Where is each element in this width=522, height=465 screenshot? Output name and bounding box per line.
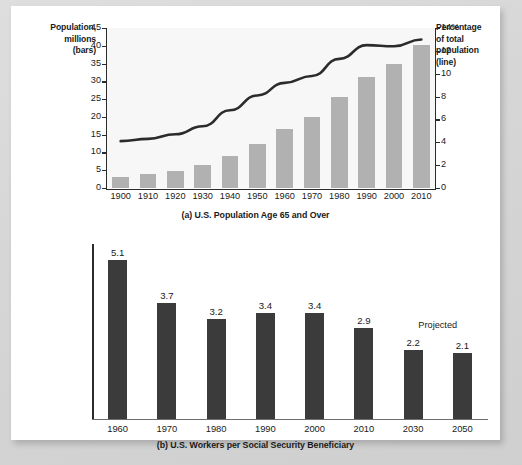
chart-b-caption: (b) U.S. Workers per Social Security Ben… (11, 440, 500, 450)
chart-a-x-tick-label: 1910 (133, 191, 163, 201)
chart-a-left-tick: 30 (77, 75, 101, 85)
chart-b-x-tick-label: 2030 (393, 423, 433, 434)
chart-a-left-tick: 25 (77, 93, 101, 103)
chart-a-left-tick: 45 (77, 22, 101, 32)
tick-mark-icon (102, 188, 106, 189)
chart-panel-a: Population, millions (bars) Percentage o… (11, 10, 500, 238)
chart-a-right-tick: 8 (441, 91, 471, 101)
chart-a-right-tick: 2 (441, 159, 471, 169)
chart-b-bar (256, 313, 275, 419)
chart-b-x-tick-label: 1980 (196, 423, 236, 434)
chart-b-x-tick-labels: 19601970198019902000201020302050 (93, 423, 487, 437)
tick-mark-icon (102, 170, 106, 171)
chart-b-bar (453, 353, 472, 419)
chart-a-line-series (107, 28, 435, 188)
tick-mark-icon (436, 51, 440, 52)
tick-mark-icon (102, 117, 106, 118)
chart-b-projected-annotation: Projected (408, 320, 468, 330)
tick-mark-icon (102, 81, 106, 82)
tick-mark-icon (436, 119, 440, 120)
chart-a-right-tick: 14% (441, 22, 471, 32)
chart-b-value-label: 2.1 (447, 340, 477, 351)
chart-b-plot-area: 5.13.73.23.43.42.92.22.1 (93, 244, 487, 419)
chart-a-left-tick: 35 (77, 58, 101, 68)
chart-a-x-tick-label: 1980 (324, 191, 354, 201)
chart-b-value-label: 3.7 (152, 290, 182, 301)
chart-b-bar (305, 313, 324, 419)
tick-mark-icon (102, 46, 106, 47)
tick-mark-icon (436, 28, 440, 29)
chart-b-x-tick-label: 1960 (98, 423, 138, 434)
tick-mark-icon (102, 64, 106, 65)
chart-b-x-tick-label: 2050 (442, 423, 482, 434)
chart-a-x-tick-label: 1990 (352, 191, 382, 201)
chart-b-bar (157, 303, 176, 419)
tick-mark-icon (436, 188, 440, 189)
chart-b-bar (207, 319, 226, 419)
chart-b-value-label: 3.4 (300, 300, 330, 311)
tick-mark-icon (102, 28, 106, 29)
chart-a-left-tick: 0 (77, 182, 101, 192)
tick-mark-icon (436, 142, 440, 143)
tick-mark-icon (436, 97, 440, 98)
chart-a-x-tick-label: 2010 (406, 191, 436, 201)
chart-a-x-tick-label: 1950 (242, 191, 272, 201)
tick-mark-icon (436, 74, 440, 75)
chart-a-x-tick-label: 1940 (215, 191, 245, 201)
chart-a-x-tick-labels: 1900191019201930194019501960197019801990… (106, 191, 436, 205)
chart-a-left-tick: 20 (77, 111, 101, 121)
chart-b-x-tick-label: 2010 (344, 423, 384, 434)
chart-b-bar (354, 328, 373, 419)
chart-panel-b: 5.13.73.23.43.42.92.22.1 196019701980199… (11, 238, 500, 438)
chart-a-x-axis-line (106, 189, 436, 190)
chart-b-bar (404, 350, 423, 419)
chart-a-right-tick: 0 (441, 182, 471, 192)
figure-page: Population, millions (bars) Percentage o… (0, 0, 522, 465)
chart-a-right-tick: 12 (441, 45, 471, 55)
chart-a-x-tick-label: 1920 (160, 191, 190, 201)
chart-a-x-tick-label: 2000 (379, 191, 409, 201)
chart-b-x-tick-label: 1970 (147, 423, 187, 434)
tick-mark-icon (436, 165, 440, 166)
figure-card: Population, millions (bars) Percentage o… (11, 6, 500, 440)
tick-mark-icon (102, 135, 106, 136)
chart-b-value-label: 3.4 (250, 300, 280, 311)
chart-b-value-label: 5.1 (103, 247, 133, 258)
chart-a-x-tick-label: 1960 (270, 191, 300, 201)
chart-a-x-tick-label: 1970 (297, 191, 327, 201)
chart-a-x-tick-label: 1900 (106, 191, 136, 201)
chart-a-left-tick-labels: 051015202530354045 (77, 28, 101, 189)
chart-a-right-tick-labels: 02468101214% (441, 28, 471, 189)
chart-a-caption: (a) U.S. Population Age 65 and Over (11, 210, 500, 220)
chart-a-right-tick: 4 (441, 136, 471, 146)
chart-b-y-axis-line (92, 244, 94, 420)
chart-a-left-tick: 5 (77, 164, 101, 174)
chart-a-line-path (121, 39, 422, 141)
chart-b-x-axis-line (92, 419, 488, 420)
chart-b-x-tick-label: 2000 (295, 423, 335, 434)
chart-b-value-label: 3.2 (201, 306, 231, 317)
chart-a-right-tick: 10 (441, 68, 471, 78)
chart-b-bar (108, 260, 127, 419)
chart-b-value-label: 2.9 (349, 315, 379, 326)
chart-b-x-tick-label: 1990 (245, 423, 285, 434)
chart-a-left-axis-line (106, 28, 107, 189)
tick-mark-icon (102, 152, 106, 153)
chart-a-left-tick: 10 (77, 146, 101, 156)
tick-mark-icon (102, 99, 106, 100)
chart-a-left-tick: 40 (77, 40, 101, 50)
chart-a-x-tick-label: 1930 (188, 191, 218, 201)
chart-a-left-tick: 15 (77, 129, 101, 139)
chart-a-right-tick: 6 (441, 113, 471, 123)
chart-b-value-label: 2.2 (398, 337, 428, 348)
